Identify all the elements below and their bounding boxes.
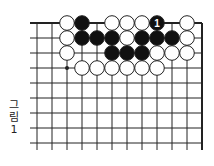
white-stone bbox=[60, 46, 75, 61]
stones-layer: 1 bbox=[60, 16, 195, 76]
white-stone bbox=[135, 61, 150, 76]
white-stone bbox=[60, 31, 75, 46]
white-stone bbox=[105, 61, 120, 76]
white-stone bbox=[120, 61, 135, 76]
black-stone bbox=[135, 46, 150, 61]
white-stone bbox=[180, 16, 195, 31]
move-number-label: 1 bbox=[154, 18, 160, 29]
black-stone bbox=[75, 31, 90, 46]
black-stone bbox=[150, 31, 165, 46]
black-stone bbox=[165, 31, 180, 46]
black-stone: 1 bbox=[150, 16, 165, 31]
figure-caption: 그 림 1 bbox=[6, 100, 22, 136]
white-stone bbox=[165, 46, 180, 61]
black-stone bbox=[120, 46, 135, 61]
star-points bbox=[65, 66, 69, 70]
white-stone bbox=[150, 61, 165, 76]
white-stone bbox=[105, 16, 120, 31]
white-stone bbox=[90, 61, 105, 76]
caption-number: 1 bbox=[6, 124, 22, 136]
white-stone bbox=[180, 46, 195, 61]
black-stone bbox=[105, 31, 120, 46]
white-stone bbox=[60, 16, 75, 31]
white-stone bbox=[120, 16, 135, 31]
white-stone bbox=[180, 31, 195, 46]
black-stone bbox=[75, 16, 90, 31]
go-board: 1 bbox=[0, 0, 214, 166]
white-stone bbox=[75, 61, 90, 76]
black-stone bbox=[135, 31, 150, 46]
star-point-dot bbox=[65, 66, 69, 70]
black-stone bbox=[90, 31, 105, 46]
white-stone bbox=[150, 46, 165, 61]
white-stone bbox=[120, 31, 135, 46]
black-stone bbox=[105, 46, 120, 61]
white-stone bbox=[135, 16, 150, 31]
